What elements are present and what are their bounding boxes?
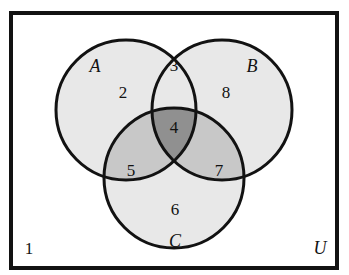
region-label-4: 4 — [170, 118, 179, 137]
region-label-6: 6 — [171, 200, 180, 219]
region-label-7: 7 — [215, 161, 224, 180]
venn-diagram-svg: 1 2 3 4 5 6 7 8 A B C U — [0, 0, 349, 275]
region-label-8: 8 — [222, 83, 231, 102]
set-label-a: A — [89, 56, 102, 76]
universe-label-u: U — [314, 238, 328, 258]
set-label-c: C — [169, 231, 182, 251]
region-label-1: 1 — [25, 239, 34, 258]
set-label-b: B — [247, 56, 258, 76]
region-label-3: 3 — [170, 56, 179, 75]
venn-diagram-figure: 1 2 3 4 5 6 7 8 A B C U — [0, 0, 349, 275]
region-label-5: 5 — [127, 161, 136, 180]
region-label-2: 2 — [119, 83, 128, 102]
